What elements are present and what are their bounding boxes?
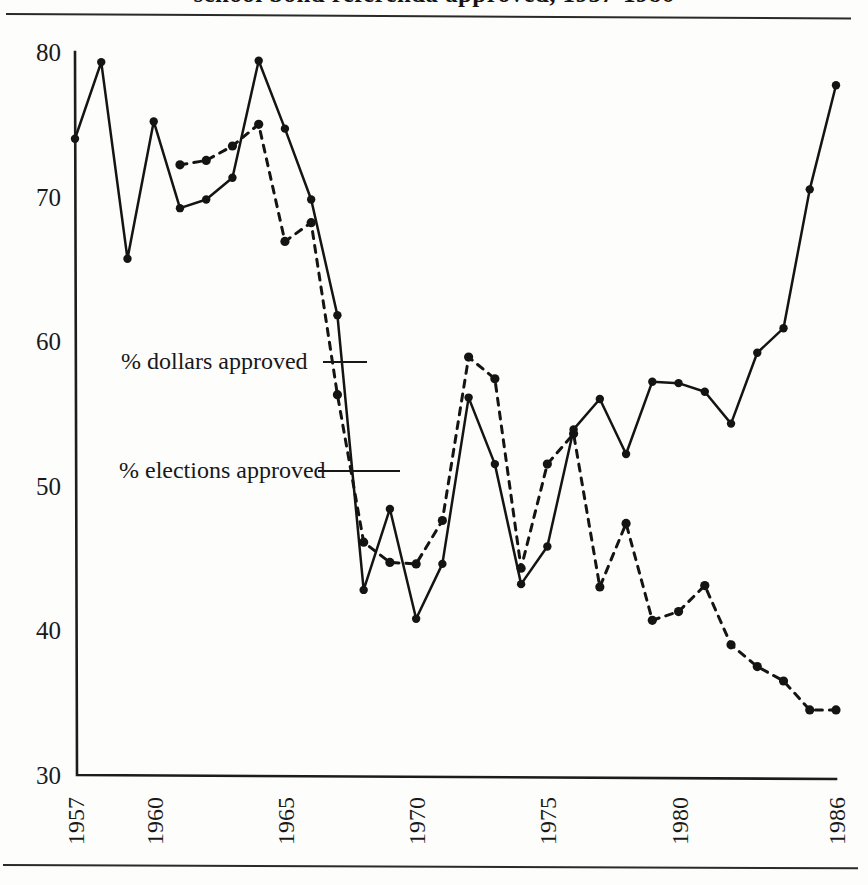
plot-area: 304050607080 195719601965197019751980198… [0, 18, 868, 858]
data-point [517, 564, 526, 573]
data-point [517, 580, 525, 588]
data-point [333, 390, 342, 399]
data-point [464, 393, 472, 401]
y-tick-30: 30 [36, 762, 61, 789]
data-point [438, 516, 447, 525]
data-point [175, 160, 184, 169]
data-point [412, 559, 421, 568]
data-point [359, 586, 367, 594]
data-point [753, 662, 762, 671]
data-point [622, 450, 630, 458]
x-tick-1975: 1975 [535, 797, 561, 845]
annotation-group: % dollars approved% elections approved [119, 348, 400, 483]
scanned-page: school bond referenda approved, 1957-198… [0, 0, 868, 885]
data-point [779, 676, 788, 685]
data-point [359, 538, 368, 547]
data-point [491, 460, 499, 468]
data-point [97, 58, 105, 66]
data-point [596, 395, 604, 403]
y-tick-50: 50 [36, 473, 61, 500]
data-point [412, 615, 420, 623]
data-point [254, 120, 263, 129]
data-point [543, 542, 551, 550]
data-point [71, 135, 79, 143]
data-point [806, 185, 814, 193]
data-point [490, 374, 499, 383]
data-point [753, 349, 761, 357]
data-point [831, 705, 840, 714]
annotation-dollars-approved-label: % dollars approved [121, 348, 308, 374]
data-point [438, 560, 446, 568]
data-point [569, 425, 577, 433]
line-chart: 304050607080 195719601965197019751980198… [0, 18, 868, 858]
series-elections-approved-markers [175, 120, 840, 715]
y-tick-40: 40 [36, 617, 61, 644]
y-tick-60: 60 [36, 328, 61, 355]
x-tick-1980: 1980 [667, 797, 693, 845]
figure-title-cropped: school bond referenda approved, 1957-198… [0, 0, 868, 11]
data-point [228, 141, 237, 150]
data-point [701, 388, 709, 396]
data-point [832, 81, 840, 89]
data-point [464, 353, 473, 362]
y-tick-80: 80 [36, 39, 61, 66]
data-point [150, 117, 158, 125]
data-point [674, 607, 683, 616]
series-elections-approved-line [180, 124, 836, 710]
x-tick-1986: 1986 [824, 797, 850, 845]
data-point [123, 255, 131, 263]
series-dollars-approved-markers [71, 56, 840, 623]
x-tick-1957: 1957 [63, 797, 89, 845]
data-point [674, 379, 682, 387]
data-point [254, 56, 262, 64]
data-point [202, 156, 211, 165]
data-point [176, 204, 184, 212]
y-axis-tick-labels: 304050607080 [36, 39, 61, 789]
x-tick-1970: 1970 [404, 797, 430, 845]
data-point [307, 195, 315, 203]
data-point [648, 616, 657, 625]
data-point [621, 519, 630, 528]
data-point [281, 124, 289, 132]
data-point [280, 237, 289, 246]
data-point [543, 460, 552, 469]
annotation-elections-approved-label: % elections approved [119, 457, 326, 483]
data-point [595, 582, 604, 591]
data-point [307, 218, 316, 227]
x-tick-1960: 1960 [142, 797, 168, 845]
data-point [333, 311, 341, 319]
axis-lines [75, 52, 836, 779]
data-point [228, 174, 236, 182]
series-dollars-approved-line [75, 61, 836, 619]
x-tick-1965: 1965 [273, 797, 299, 845]
y-tick-70: 70 [36, 184, 61, 211]
data-point [779, 324, 787, 332]
data-point [700, 581, 709, 590]
data-point [726, 640, 735, 649]
x-axis-tick-labels: 1957196019651970197519801986 [63, 797, 850, 845]
data-point [385, 558, 394, 567]
data-point [202, 195, 210, 203]
figure-title-text: school bond referenda approved, 1957-198… [0, 0, 868, 8]
data-point [727, 419, 735, 427]
horizontal-rule-bottom [3, 864, 858, 869]
data-point [386, 505, 394, 513]
data-point [648, 377, 656, 385]
data-point [805, 705, 814, 714]
